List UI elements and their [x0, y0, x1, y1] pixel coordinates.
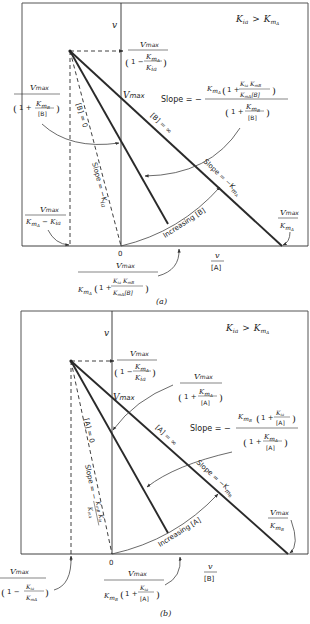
svg-text:KmA: KmA: [279, 222, 294, 232]
panel-b-increasing-label: Increasing [A]: [157, 516, 203, 549]
panel-b-x-label-den: [B]: [204, 575, 215, 583]
svg-text:Vmax: Vmax: [280, 208, 299, 217]
panel-b-convergence-point: [69, 359, 72, 362]
svg-text:): ): [284, 437, 288, 448]
svg-text:): ): [152, 367, 156, 378]
panel-a-x-neg-intercept-annotation: Vmax KmA − Kia: [25, 205, 66, 228]
panel-a-x-label-num: v: [215, 251, 220, 260]
svg-text:Kia: Kia: [25, 583, 35, 591]
svg-text:Kia: Kia: [145, 64, 157, 72]
svg-text:(: (: [222, 85, 226, 96]
panel-b-x-label-num: v: [208, 562, 213, 571]
svg-text:[A]: [A]: [140, 595, 149, 602]
panel-b-vmax-label: Vmax: [113, 392, 136, 402]
svg-text:KmB: KmB: [103, 592, 118, 602]
panel-a-x-right-intercept-annotation: Vmax KmA: [278, 208, 299, 232]
svg-text:KmA[B]: KmA[B]: [112, 289, 134, 297]
svg-text:Vmax: Vmax: [194, 372, 213, 381]
panel-a-mid-line: [70, 51, 168, 224]
svg-text:Slope = −: Slope = −: [83, 464, 98, 501]
panel-b-slope-expression: Slope = − KmB ( 1 + Kia [A] ) ( 1 + KmA …: [190, 409, 298, 451]
panel-b-a-zero-line: [71, 361, 112, 554]
panel-b-mid-line: [71, 361, 168, 533]
lineweaver-burk-diagram: Kia>KmA v Vmax Vmax ( 1 − KmA Kia ) Vmax: [0, 0, 310, 624]
panel-b-x-mid-intercept-annotation: Vmax KmB ( 1 + Kia [A] ): [103, 569, 164, 602]
svg-text:KmA: KmA: [263, 433, 278, 443]
panel-b-x-neg-arrow: [54, 556, 71, 590]
svg-text:): ): [266, 107, 270, 118]
svg-text:1 −: 1 −: [131, 58, 144, 66]
svg-text:KmA: KmA: [86, 505, 96, 519]
svg-text:KmB: KmB: [269, 522, 284, 532]
panel-a-left-arrow: [42, 124, 119, 144]
panel-a-x-label-den: [A]: [211, 264, 222, 272]
svg-text:KmA: KmA: [134, 363, 149, 373]
panel-a-vmax-label: Vmax: [123, 90, 146, 100]
svg-text:(: (: [243, 437, 247, 448]
panel-b-right-intercept-annotation: Vmax ( 1 + KmA [A] ): [178, 372, 223, 406]
panel-a-x-mid-arrow: [158, 249, 179, 276]
svg-text:Vmax: Vmax: [270, 508, 289, 517]
panel-b-a-zero-label: [A] = 0: [82, 418, 96, 444]
panel-a-b-inf-label: [B] = ∞: [149, 112, 174, 136]
panel-a: Kia>KmA v Vmax Vmax ( 1 − KmA Kia ) Vmax: [13, 3, 308, 306]
svg-text:[A]: [A]: [201, 399, 210, 406]
svg-text:): ): [45, 587, 49, 598]
svg-text:(: (: [225, 107, 229, 118]
svg-text:(: (: [94, 283, 98, 294]
svg-text:KmA: KmA: [206, 85, 221, 95]
svg-text:(: (: [256, 413, 260, 424]
svg-text:): ): [219, 392, 223, 403]
panel-a-y-label: v: [112, 20, 117, 30]
svg-text:): ): [156, 589, 160, 600]
svg-text:1 +: 1 +: [231, 108, 244, 116]
svg-text:1 +: 1 +: [184, 393, 197, 401]
svg-text:1 +: 1 +: [249, 438, 262, 446]
panel-a-origin: 0: [118, 250, 122, 258]
svg-text:Vmax: Vmax: [128, 569, 147, 578]
svg-text:1 −: 1 −: [120, 368, 133, 376]
panel-b-y-label: v: [104, 328, 109, 338]
panel-a-condition: Kia>KmA: [235, 14, 279, 26]
svg-text:(: (: [178, 392, 182, 403]
svg-text:Kia: Kia: [139, 584, 149, 592]
panel-b-origin: 0: [109, 559, 113, 567]
svg-text:): ): [163, 57, 167, 68]
svg-text:): ): [272, 85, 276, 96]
panel-a-slope-kia-label: Slope = −Kia: [89, 161, 110, 208]
panel-a-slope-arrow: [145, 128, 240, 176]
svg-text:(: (: [1, 587, 5, 598]
panel-b-x-neg-intercept-annotation: Vmax ( 1 − Kia KmA ): [0, 567, 49, 602]
svg-text:Vmax: Vmax: [30, 83, 49, 92]
panel-b-slope-dash-label: Slope = − KmB Kia KmA: [77, 463, 107, 527]
svg-text:Vmax: Vmax: [130, 349, 149, 358]
panel-a-x-mid-intercept-annotation: Vmax KmA ( 1 + Kia KmB KmA[B] ): [77, 261, 158, 297]
svg-text:Vmax: Vmax: [116, 261, 135, 270]
svg-text:KmA: KmA: [77, 286, 92, 296]
svg-text:[B]: [B]: [38, 110, 47, 117]
svg-text:(: (: [13, 103, 17, 114]
svg-text:KmA: KmA: [25, 594, 37, 602]
svg-text:[B]: [B]: [248, 114, 257, 121]
svg-text:): ): [56, 103, 60, 114]
panel-a-convergence-point: [68, 49, 71, 52]
panel-a-x-neg-arrow: [48, 230, 69, 245]
svg-text:KmA: KmA: [145, 53, 160, 63]
panel-a-caption: (a): [156, 297, 167, 306]
panel-b-caption: (b): [160, 609, 171, 618]
svg-text:Kia: Kia: [134, 374, 146, 382]
panel-b-a-inf-line: [71, 361, 288, 554]
panel-a-x-right-arrow: [283, 232, 290, 245]
svg-text:Slope = −: Slope = −: [161, 95, 202, 104]
svg-text:): ): [145, 283, 149, 294]
svg-text:Kia KmB: Kia KmB: [112, 277, 134, 285]
svg-text:1 +: 1 +: [19, 104, 32, 112]
svg-text:(: (: [125, 57, 129, 68]
panel-a-top-intercept-annotation: Vmax ( 1 − KmA Kia ): [125, 40, 168, 72]
svg-text:1 −: 1 −: [7, 588, 20, 596]
panel-b-a-inf-label: [A] = ∞: [154, 424, 179, 448]
panel-b-top-intercept-annotation: Vmax ( 1 − KmA Kia ): [114, 349, 157, 382]
svg-text:Vmax: Vmax: [40, 205, 59, 214]
svg-text:1 +: 1 +: [261, 414, 274, 422]
svg-text:(: (: [114, 367, 118, 378]
